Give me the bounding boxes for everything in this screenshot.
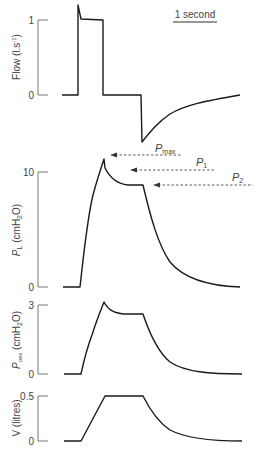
time-scale-bar: 1 second [173,9,217,22]
p2-annotation: P2 [153,171,253,188]
flow-tick-0: 0 [28,90,34,101]
poes-panel: 3 0 Poes (cmH2O) [11,300,242,380]
arrow-left-icon [130,168,137,173]
respiratory-traces-figure: 1 second 1 0 Flow (l.s-1) 10 0 PL (cmH2O… [0,0,258,454]
pl-y-axis [38,172,48,287]
pl-tick-10: 10 [23,167,35,178]
poes-y-label: Poes (cmH2O) [11,311,23,369]
poes-tick-3: 3 [28,300,34,311]
flow-y-label: Flow (l.s-1) [11,34,22,80]
volume-tick-0-5: 0.5 [20,391,34,402]
flow-tick-1: 1 [28,15,34,26]
scale-bar-label: 1 second [175,9,216,20]
flow-y-axis [38,20,48,95]
volume-trace [64,396,242,441]
svg-text:P1: P1 [196,156,207,169]
volume-tick-0: 0 [28,436,34,447]
pl-panel: 10 0 PL (cmH2O) Pmax P1 P2 [11,142,253,293]
volume-y-axis [38,396,48,441]
arrow-left-icon [110,153,117,158]
poes-tick-0: 0 [28,369,34,380]
p1-annotation: P1 [130,156,215,173]
poes-y-axis [38,305,48,374]
poes-trace [64,302,242,374]
arrow-left-icon [153,183,160,188]
svg-text:Pmax: Pmax [155,142,176,155]
volume-panel: 0.5 0 V (litres) [11,391,242,447]
pmax-annotation: Pmax [110,142,182,158]
pl-trace [63,159,240,287]
pl-y-label: PL (cmH2O) [11,204,23,256]
flow-panel: 1 0 Flow (l.s-1) [11,5,240,142]
flow-trace [62,5,240,142]
svg-text:P2: P2 [232,171,243,184]
volume-y-label: V (litres) [11,399,22,436]
pl-tick-0: 0 [28,282,34,293]
